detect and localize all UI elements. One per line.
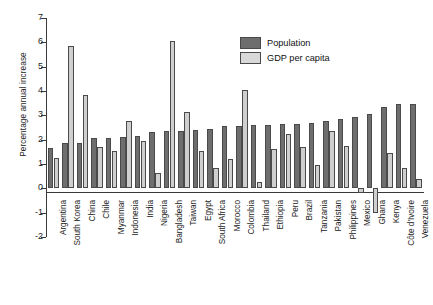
bar-pop bbox=[135, 136, 141, 188]
y-tick-label: 2 bbox=[38, 134, 43, 144]
bar-pop bbox=[164, 131, 170, 188]
bar-gdp bbox=[141, 141, 147, 188]
x-axis-label: Myanmar bbox=[117, 200, 126, 300]
x-axis-label: China bbox=[88, 200, 97, 300]
x-axis-labels: ArgentinaSouth KoreaChinaChileMyanmarInd… bbox=[47, 196, 424, 304]
bar-gdp bbox=[54, 158, 60, 188]
y-tick-label: 6 bbox=[38, 36, 43, 46]
bar-pop bbox=[193, 130, 199, 188]
y-tick-label: 3 bbox=[38, 109, 43, 119]
bar-gdp bbox=[402, 168, 408, 189]
bar-pop bbox=[265, 125, 271, 188]
bar-gdp bbox=[300, 147, 306, 188]
bar-gdp bbox=[416, 179, 422, 189]
y-tick-label: 7 bbox=[38, 12, 43, 22]
bar-pop bbox=[280, 124, 286, 188]
x-axis-label: Egypt bbox=[204, 200, 213, 300]
bar-gdp bbox=[228, 159, 234, 188]
x-axis-label: Chile bbox=[102, 200, 111, 300]
bar-pop bbox=[62, 143, 68, 188]
bar-pop bbox=[106, 138, 112, 188]
bar-gdp bbox=[387, 153, 393, 188]
y-tick-label: -1 bbox=[35, 207, 43, 217]
x-axis-label: Pakistan bbox=[334, 200, 343, 300]
legend-label-population: Population bbox=[267, 38, 310, 48]
x-axis-label: Peru bbox=[291, 200, 300, 300]
bar-gdp bbox=[155, 173, 161, 189]
y-tick-label: -2 bbox=[35, 231, 43, 241]
bar-gdp bbox=[112, 151, 118, 189]
bar-gdp bbox=[286, 134, 292, 189]
y-tick-label: 4 bbox=[38, 85, 43, 95]
bar-pop bbox=[48, 148, 54, 188]
bar-pop bbox=[352, 117, 358, 189]
bar-pop bbox=[207, 129, 213, 189]
bar-gdp bbox=[126, 121, 132, 188]
y-tick-label: 1 bbox=[38, 158, 43, 168]
bar-pop bbox=[236, 126, 242, 188]
bar-gdp bbox=[68, 46, 74, 188]
bar-pop bbox=[309, 123, 315, 189]
x-axis-label: Ghana bbox=[378, 200, 387, 300]
bar-pop bbox=[251, 125, 257, 188]
x-axis-label: Bangladesh bbox=[175, 200, 184, 300]
x-axis-label: Brazil bbox=[305, 200, 314, 300]
x-axis-label: Thailand bbox=[262, 200, 271, 300]
bar-pop bbox=[222, 126, 228, 188]
bar-pop bbox=[338, 119, 344, 188]
y-axis-title: Percentage annual increase bbox=[19, 20, 28, 190]
x-axis-label: Venezuela bbox=[421, 200, 430, 300]
bar-pop bbox=[91, 138, 97, 188]
bar-gdp bbox=[271, 149, 277, 188]
legend-label-gdp-per-capita: GDP per capita bbox=[267, 53, 330, 63]
bar-gdp bbox=[358, 188, 364, 193]
x-axis-label: Tanzania bbox=[320, 200, 329, 300]
bar-gdp bbox=[257, 182, 263, 188]
x-axis-label: South Africa bbox=[218, 200, 227, 300]
bar-pop bbox=[323, 121, 329, 188]
bar-pop bbox=[381, 107, 387, 189]
x-axis-label: Colombia bbox=[247, 200, 256, 300]
x-axis-label: Mexico bbox=[363, 200, 372, 300]
bar-pop bbox=[294, 124, 300, 188]
legend-item-population: Population bbox=[240, 35, 330, 50]
x-axis-label: Ethiopia bbox=[276, 200, 285, 300]
bar-gdp bbox=[83, 95, 89, 189]
bar-gdp bbox=[213, 168, 219, 189]
x-axis-label: India bbox=[146, 200, 155, 300]
bar-pop bbox=[149, 132, 155, 188]
bar-pop bbox=[178, 131, 184, 188]
x-axis-label: Taiwan bbox=[189, 200, 198, 300]
bar-pop bbox=[396, 104, 402, 188]
bar-gdp bbox=[242, 90, 248, 189]
bar-gdp bbox=[97, 147, 103, 188]
bar-gdp bbox=[170, 41, 176, 188]
legend-swatch-population-icon bbox=[240, 37, 261, 49]
x-axis-label: Côte d'Ivoire bbox=[407, 200, 416, 300]
x-axis-label: Morocco bbox=[233, 200, 242, 300]
legend-swatch-gdp-icon bbox=[240, 52, 261, 64]
bar-gdp bbox=[184, 112, 190, 189]
bar-gdp bbox=[199, 151, 205, 189]
bar-pop bbox=[410, 104, 416, 188]
bar-pop bbox=[77, 143, 83, 188]
x-axis-label: South Korea bbox=[73, 200, 82, 300]
x-axis-label: Kenya bbox=[392, 200, 401, 300]
bar-gdp bbox=[315, 165, 321, 188]
bar-chart: Percentage annual increase 76543210-1-2 … bbox=[0, 0, 433, 305]
legend-item-gdp-per-capita: GDP per capita bbox=[240, 50, 330, 65]
bar-gdp bbox=[344, 146, 350, 189]
bar-pop bbox=[120, 137, 126, 188]
x-axis-label: Nigeria bbox=[160, 200, 169, 300]
x-axis-label: Argentina bbox=[59, 200, 68, 300]
bar-pop bbox=[367, 114, 373, 188]
x-axis-label: Indonesia bbox=[131, 200, 140, 300]
legend: Population GDP per capita bbox=[236, 33, 334, 68]
y-tick-label: 5 bbox=[38, 61, 43, 71]
y-tick-label: 0 bbox=[38, 182, 43, 192]
x-axis-label: Philippines bbox=[349, 200, 358, 300]
bar-gdp bbox=[329, 131, 335, 188]
